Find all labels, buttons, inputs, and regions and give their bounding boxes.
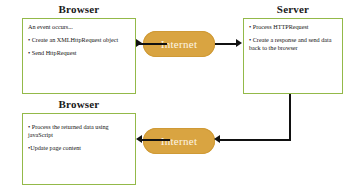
server-title: Server <box>243 3 343 15</box>
arrow-internet-to-browser-line <box>141 139 170 141</box>
browser-top-box: An event occurs... • Create an XMLHttpRe… <box>22 18 136 94</box>
browser-top-title: Browser <box>22 3 136 15</box>
browser-top-line-2: • Send HttpRequest <box>28 49 130 57</box>
browser-bottom-title: Browser <box>22 98 136 110</box>
arrow-internet-to-server-line <box>215 43 238 45</box>
browser-bottom-body: • Process the returned data using javaSc… <box>23 114 135 159</box>
ajax-flow-diagram: Browser An event occurs... • Create an X… <box>0 0 351 192</box>
server-line-0: • Process HTTPRequest <box>249 23 337 31</box>
arrow-server-down-segment <box>289 94 291 141</box>
arrow-internet-to-server-head <box>236 39 242 47</box>
server-line-1: • Create a response and send data back t… <box>249 36 337 53</box>
internet-pill-bottom-label: Internet <box>161 135 198 147</box>
browser-top-line-0: An event occurs... <box>28 23 130 31</box>
internet-pill-bottom: Internet <box>143 128 215 154</box>
server-body: • Process HTTPRequest • Create a respons… <box>244 19 342 59</box>
arrow-internet-to-browser-head <box>136 135 142 143</box>
server-box: • Process HTTPRequest • Create a respons… <box>243 18 343 94</box>
browser-bottom-line-1: •Update page content <box>28 144 130 152</box>
browser-top-line-1: • Create an XMLHttpRequest object <box>28 36 130 44</box>
browser-bottom-line-0: • Process the returned data using javaSc… <box>28 123 130 140</box>
arrow-server-to-internet-segment <box>219 139 291 141</box>
arrow-browser-to-internet-head <box>136 39 142 47</box>
arrow-server-to-internet-head <box>214 135 220 143</box>
browser-top-body: An event occurs... • Create an XMLHttpRe… <box>23 19 135 64</box>
browser-bottom-box: • Process the returned data using javaSc… <box>22 113 136 185</box>
